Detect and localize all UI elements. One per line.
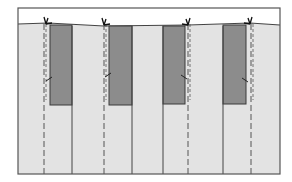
fold-panel-panel-3 <box>163 26 185 104</box>
fold-panel-panel-2 <box>109 26 132 105</box>
pleat-diagram <box>0 0 292 182</box>
fold-panel-panel-1 <box>50 25 72 105</box>
fold-panel-panel-4 <box>223 25 246 104</box>
